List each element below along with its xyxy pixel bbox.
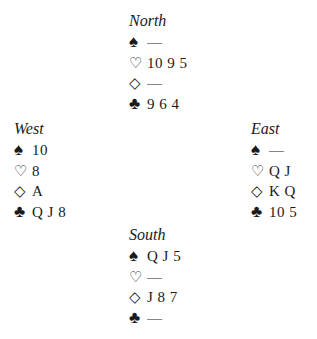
player-name-south: South xyxy=(129,225,181,246)
suit-row-hearts: ♡ 10 9 5 xyxy=(129,53,188,74)
suit-row-spades: ♠ — xyxy=(251,140,297,161)
cards-spades: 10 xyxy=(32,140,48,161)
hand-north: North ♠ — ♡ 10 9 5 ◇ — ♣ 9 6 4 xyxy=(129,11,188,114)
cards-spades: — xyxy=(269,140,285,161)
cards-spades: Q J 5 xyxy=(147,246,181,267)
suit-row-spades: ♠ 10 xyxy=(14,140,66,161)
spade-icon: ♠ xyxy=(14,140,32,161)
suit-row-diamonds: ◇ A xyxy=(14,181,66,202)
suit-row-diamonds: ◇ J 8 7 xyxy=(129,287,181,308)
player-name-north: North xyxy=(129,11,188,32)
cards-hearts: 8 xyxy=(32,161,40,182)
spade-icon: ♠ xyxy=(129,246,147,267)
spade-icon: ♠ xyxy=(129,32,147,53)
heart-icon: ♡ xyxy=(129,267,147,288)
hand-east: East ♠ — ♡ Q J ◇ K Q ♣ 10 5 xyxy=(251,119,297,222)
player-name-west: West xyxy=(14,119,66,140)
heart-icon: ♡ xyxy=(14,161,32,182)
diamond-icon: ◇ xyxy=(251,181,269,202)
cards-clubs: — xyxy=(147,308,163,329)
diamond-icon: ◇ xyxy=(129,287,147,308)
club-icon: ♣ xyxy=(251,202,269,223)
cards-diamonds: J 8 7 xyxy=(147,287,178,308)
player-name-east: East xyxy=(251,119,297,140)
suit-row-diamonds: ◇ K Q xyxy=(251,181,297,202)
diamond-icon: ◇ xyxy=(14,181,32,202)
cards-hearts: Q J xyxy=(269,161,291,182)
cards-hearts: 10 9 5 xyxy=(147,53,188,74)
suit-row-spades: ♠ — xyxy=(129,32,188,53)
cards-diamonds: K Q xyxy=(269,181,296,202)
cards-diamonds: A xyxy=(32,181,43,202)
hand-south: South ♠ Q J 5 ♡ — ◇ J 8 7 ♣ — xyxy=(129,225,181,328)
suit-row-clubs: ♣ 9 6 4 xyxy=(129,94,188,115)
spade-icon: ♠ xyxy=(251,140,269,161)
club-icon: ♣ xyxy=(129,94,147,115)
heart-icon: ♡ xyxy=(129,53,147,74)
suit-row-clubs: ♣ — xyxy=(129,308,181,329)
hand-west: West ♠ 10 ♡ 8 ◇ A ♣ Q J 8 xyxy=(14,119,66,222)
suit-row-hearts: ♡ — xyxy=(129,267,181,288)
suit-row-clubs: ♣ 10 5 xyxy=(251,202,297,223)
diamond-icon: ◇ xyxy=(129,73,147,94)
suit-row-diamonds: ◇ — xyxy=(129,73,188,94)
cards-hearts: — xyxy=(147,267,163,288)
cards-spades: — xyxy=(147,32,163,53)
suit-row-clubs: ♣ Q J 8 xyxy=(14,202,66,223)
cards-clubs: Q J 8 xyxy=(32,202,66,223)
cards-clubs: 10 5 xyxy=(269,202,297,223)
cards-diamonds: — xyxy=(147,73,163,94)
heart-icon: ♡ xyxy=(251,161,269,182)
cards-clubs: 9 6 4 xyxy=(147,94,180,115)
suit-row-hearts: ♡ 8 xyxy=(14,161,66,182)
club-icon: ♣ xyxy=(14,202,32,223)
suit-row-hearts: ♡ Q J xyxy=(251,161,297,182)
suit-row-spades: ♠ Q J 5 xyxy=(129,246,181,267)
club-icon: ♣ xyxy=(129,308,147,329)
